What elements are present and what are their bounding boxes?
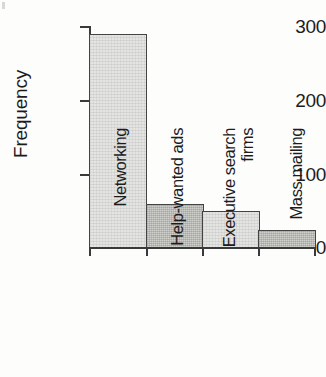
x-label-executive-search-firms-second-line: firms bbox=[239, 128, 256, 258]
y-axis-title: Frequency bbox=[11, 59, 31, 169]
x-tick-3 bbox=[258, 247, 260, 256]
y-tick-label-300: 300 bbox=[278, 17, 326, 36]
x-label-networking-text: Networking bbox=[111, 128, 129, 207]
x-label-executive-search-firms-line1: Executive search bbox=[220, 128, 238, 247]
x-label-executive-search-firms-line2: firms bbox=[238, 128, 256, 162]
x-label-help-wanted-ads-text: Help-wanted ads bbox=[168, 128, 186, 246]
x-label-networking: Networking bbox=[112, 128, 129, 258]
y-tick-label-200: 200 bbox=[278, 91, 326, 110]
y-tick-300 bbox=[80, 26, 91, 28]
x-tick-2 bbox=[202, 247, 204, 256]
x-label-mass-mailing-text: Mass mailing bbox=[287, 128, 305, 219]
x-tick-1 bbox=[146, 247, 148, 256]
x-tick-0 bbox=[89, 247, 91, 256]
x-label-executive-search-firms: Executive search bbox=[221, 128, 238, 258]
bar-chart-figure: 300 200 100 0 Frequency Networking Help-… bbox=[0, 0, 326, 377]
scan-artifact bbox=[2, 2, 5, 9]
x-tick-4 bbox=[314, 247, 316, 256]
x-label-mass-mailing: Mass mailing bbox=[288, 128, 305, 258]
x-label-help-wanted-ads: Help-wanted ads bbox=[169, 128, 186, 258]
